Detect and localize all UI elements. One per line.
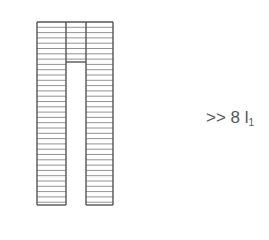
annotation-text: >> 8 l — [206, 108, 249, 127]
ratio-annotation: >> 8 l1 — [206, 108, 254, 128]
annotation-subscript: 1 — [249, 117, 255, 128]
